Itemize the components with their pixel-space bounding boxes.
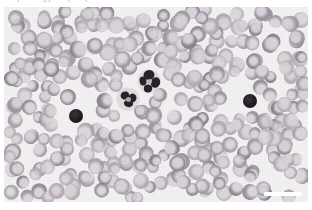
caption-artifact-glyphs: Morphology of peripheral blood smear xyxy=(0,0,173,2)
erythrocyte xyxy=(132,172,149,189)
caption-text-artifact: Morphology of peripheral blood smear xyxy=(0,0,312,6)
dark-cell-left xyxy=(69,109,83,123)
erythrocyte xyxy=(7,40,22,55)
erythrocyte-field xyxy=(4,7,308,202)
nuclear-hollow xyxy=(126,97,131,102)
blood-smear-micrograph xyxy=(4,7,308,202)
erythrocyte xyxy=(258,129,274,145)
erythrocyte xyxy=(166,110,183,127)
nuclear-hollow xyxy=(147,79,152,84)
segmented-neutrophil-lower xyxy=(111,82,145,116)
scale-bar xyxy=(264,192,302,196)
erythrocyte xyxy=(222,137,238,153)
erythrocyte xyxy=(110,69,123,82)
figure-panel: Morphology of peripheral blood smear xyxy=(0,0,312,210)
dark-cell-right xyxy=(243,94,257,108)
erythrocyte xyxy=(248,23,262,37)
